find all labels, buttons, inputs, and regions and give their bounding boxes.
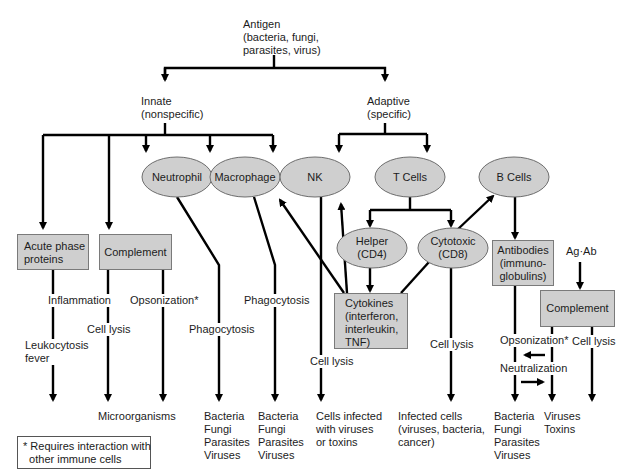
- helper-cd4-node: Helper (CD4): [337, 228, 407, 268]
- nk-node: NK: [280, 157, 350, 197]
- opsonization-innate-label: Opsonization*: [130, 294, 199, 307]
- immune-response-diagram: Antigen (bacteria, fungi, parasites, vir…: [0, 0, 632, 474]
- complement-adaptive-box: Complement: [540, 290, 615, 327]
- opsonization-adaptive-label: Opsonization*: [500, 334, 569, 347]
- b-cells-node: B Cells: [479, 157, 549, 197]
- cytokines-box: Cytokines (interferon, interleukin, TNF): [334, 293, 408, 349]
- inflammation-label: Inflammation: [48, 294, 111, 307]
- macrophage-node: Macrophage: [210, 157, 280, 197]
- leukocytosis-fever-label: Leukocytosis fever: [25, 339, 89, 365]
- t-cells-node: T Cells: [375, 157, 445, 197]
- microorganisms-target: Microorganisms: [98, 410, 176, 423]
- phagocytosis-macrophage-label: Phagocytosis: [244, 294, 309, 307]
- cytotoxic-cd8-node: Cytotoxic (CD8): [418, 228, 488, 268]
- acute-phase-proteins-box: Acute phase proteins: [17, 234, 89, 270]
- footnote-box: * Requires interaction with other immune…: [17, 436, 151, 469]
- cell-lysis-nk-label: Cell lysis: [310, 355, 353, 368]
- neutrophil-targets: Bacteria Fungi Parasites Viruses: [204, 410, 250, 462]
- adaptive-label: Adaptive (specific): [367, 95, 411, 121]
- cd8-targets: Infected cells (viruses, bacteria, cance…: [398, 410, 485, 449]
- nk-targets: Cells infected with viruses or toxins: [316, 410, 382, 449]
- ag-ab-label: Ag·Ab: [566, 245, 597, 258]
- cell-lysis-complement-label: Cell lysis: [87, 323, 130, 336]
- phagocytosis-neutrophil-label: Phagocytosis: [189, 323, 254, 336]
- innate-label: Innate (nonspecific): [141, 95, 203, 121]
- connector-lines: [0, 0, 632, 474]
- neutralization-label: Neutralization: [500, 362, 567, 375]
- antigen-label: Antigen (bacteria, fungi, parasites, vir…: [243, 18, 321, 57]
- cell-lysis-cd8-label: Cell lysis: [430, 338, 473, 351]
- antibodies-box: Antibodies (immuno- globulins): [492, 240, 554, 286]
- macrophage-targets: Bacteria Fungi Parasites Viruses: [258, 410, 304, 462]
- complement-innate-box: Complement: [99, 234, 172, 270]
- cell-lysis-complement-adaptive-label: Cell lysis: [572, 335, 615, 348]
- neutrophil-node: Neutrophil: [142, 157, 212, 197]
- neutralization-targets: Viruses Toxins: [544, 410, 580, 436]
- antibody-targets: Bacteria Fungi Parasites Viruses: [494, 410, 540, 462]
